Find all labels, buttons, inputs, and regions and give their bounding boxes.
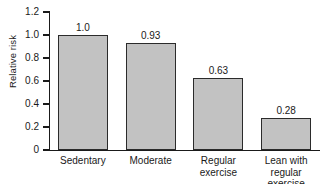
y-tick-label: 1.0	[5, 30, 39, 40]
y-tick-mark	[43, 80, 50, 81]
y-tick-label: 0.4	[5, 99, 39, 109]
y-tick-label: 0.8	[5, 53, 39, 63]
bar-value-label: 0.93	[121, 30, 181, 41]
y-tick-label: 0.6	[5, 76, 39, 86]
x-tick-label-line: Regular	[185, 155, 253, 167]
bar-value-label: 1.0	[53, 22, 113, 33]
y-tick-mark	[43, 103, 50, 104]
x-tick-label-line: regular exercise	[252, 167, 320, 185]
bar-value-label: 0.28	[256, 105, 316, 116]
bar	[58, 35, 108, 150]
bar	[193, 78, 243, 150]
y-tick-mark	[43, 57, 50, 58]
y-tick-label: 0.2	[5, 122, 39, 132]
x-tick-label-line: Moderate	[117, 155, 185, 167]
y-tick-mark	[43, 34, 50, 35]
bar-chart: Relative risk 00.20.40.60.81.01.2 1.00.9…	[0, 0, 322, 184]
bar-value-label: 0.63	[188, 65, 248, 76]
x-tick-label: Moderate	[117, 155, 185, 167]
x-tick-label: Regularexercise	[185, 155, 253, 178]
y-tick-mark	[43, 126, 50, 127]
x-tick-label-line: exercise	[185, 167, 253, 179]
x-tick-label-line: Sedentary	[49, 155, 117, 167]
y-tick-mark	[43, 149, 50, 150]
x-tick-label: Sedentary	[49, 155, 117, 167]
bar	[126, 43, 176, 150]
x-tick-label-line: Lean with	[252, 155, 320, 167]
x-tick-label: Lean withregular exercise	[252, 155, 320, 184]
bar	[261, 118, 311, 150]
y-tick-label: 1.2	[5, 7, 39, 17]
y-tick-mark	[43, 11, 50, 12]
y-tick-label: 0	[5, 145, 39, 155]
